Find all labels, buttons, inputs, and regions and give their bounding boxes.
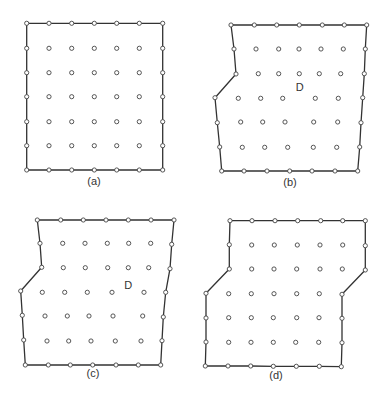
interior-node: [115, 120, 119, 124]
interior-node: [115, 95, 119, 99]
panel-a-interior-nodes: [47, 46, 141, 148]
mesh-figure: (a) D (b) D (c) (d): [0, 0, 386, 398]
boundary-node: [362, 72, 366, 76]
boundary-node: [320, 23, 324, 27]
boundary-node: [35, 218, 39, 222]
boundary-node: [70, 21, 74, 25]
boundary-node: [159, 363, 163, 367]
boundary-node: [333, 169, 337, 173]
panel-b-label: (b): [283, 176, 296, 188]
interior-node: [254, 47, 258, 51]
interior-node: [70, 71, 74, 75]
interior-node: [295, 292, 299, 296]
boundary-node: [342, 23, 346, 27]
boundary-node: [170, 242, 174, 246]
boundary-node: [161, 315, 165, 319]
boundary-node: [115, 21, 119, 25]
boundary-node: [242, 169, 246, 173]
interior-node: [137, 46, 141, 50]
interior-node: [294, 340, 298, 344]
boundary-node: [340, 316, 344, 320]
interior-node: [111, 314, 115, 318]
boundary-node: [359, 121, 363, 125]
boundary-node: [59, 218, 63, 222]
boundary-node: [365, 23, 369, 27]
panel-b-interior-nodes: [236, 47, 345, 149]
boundary-node: [25, 168, 29, 172]
interior-node: [311, 145, 315, 149]
interior-node: [340, 267, 344, 271]
interior-node: [65, 314, 69, 318]
boundary-node: [46, 363, 50, 367]
panel-c-label: (c): [87, 367, 100, 379]
interior-node: [236, 96, 240, 100]
interior-node: [105, 241, 109, 245]
interior-node: [115, 144, 119, 148]
interior-node: [47, 46, 51, 50]
interior-node: [149, 241, 153, 245]
boundary-node: [296, 219, 300, 223]
boundary-node: [25, 120, 29, 124]
interior-node: [127, 241, 131, 245]
boundary-node: [172, 218, 176, 222]
boundary-node: [363, 244, 367, 248]
interior-node: [317, 292, 321, 296]
interior-node: [85, 290, 89, 294]
interior-node: [67, 339, 71, 343]
boundary-node: [218, 145, 222, 149]
boundary-node: [204, 291, 208, 295]
boundary-node: [273, 219, 277, 223]
boundary-node: [161, 120, 165, 124]
boundary-node: [47, 168, 51, 172]
interior-node: [227, 292, 231, 296]
boundary-node: [204, 316, 208, 320]
interior-node: [336, 120, 340, 124]
boundary-node: [92, 168, 96, 172]
interior-node: [45, 339, 49, 343]
boundary-node: [339, 365, 343, 369]
boundary-node: [340, 341, 344, 345]
boundary-node: [297, 23, 301, 27]
interior-node: [335, 145, 339, 149]
boundary-node: [363, 219, 367, 223]
interior-node: [240, 145, 244, 149]
boundary-node: [203, 364, 207, 368]
interior-node: [319, 47, 323, 51]
boundary-node: [319, 219, 323, 223]
boundary-node: [265, 169, 269, 173]
boundary-node: [25, 144, 29, 148]
boundary-node: [204, 340, 208, 344]
interior-node: [106, 266, 110, 270]
boundary-node: [341, 219, 345, 223]
boundary-node: [161, 21, 165, 25]
interior-node: [250, 243, 254, 247]
interior-node: [286, 145, 290, 149]
boundary-node: [363, 47, 367, 51]
interior-node: [61, 266, 65, 270]
interior-node: [317, 340, 321, 344]
boundary-node: [38, 241, 42, 245]
panel-c-interior-nodes: [40, 241, 153, 343]
boundary-node: [227, 243, 231, 247]
boundary-node: [310, 169, 314, 173]
interior-node: [40, 290, 44, 294]
panel-a: (a): [25, 21, 165, 187]
interior-node: [272, 292, 276, 296]
interior-node: [295, 316, 299, 320]
interior-node: [61, 241, 65, 245]
interior-node: [227, 340, 231, 344]
boundary-node: [114, 363, 118, 367]
interior-node: [126, 266, 130, 270]
panel-d: (d): [203, 219, 367, 381]
interior-node: [92, 120, 96, 124]
interior-node: [137, 144, 141, 148]
interior-node: [110, 290, 114, 294]
panel-d-label: (d): [269, 369, 282, 381]
interior-node: [249, 340, 253, 344]
boundary-node: [164, 290, 168, 294]
boundary-node: [229, 23, 233, 27]
interior-node: [261, 120, 265, 124]
boundary-node: [232, 47, 236, 51]
interior-node: [339, 72, 343, 76]
interior-node: [317, 72, 321, 76]
